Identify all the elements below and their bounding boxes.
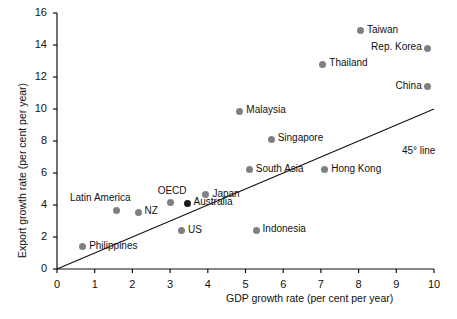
y-tick-label: 0 — [21, 263, 47, 274]
data-point-marker[interactable] — [167, 199, 174, 206]
data-point-label: OECD — [158, 186, 187, 196]
x-tick-label: 1 — [81, 279, 109, 290]
y-tick-label: 16 — [21, 7, 47, 18]
data-point-label: Latin America — [70, 193, 131, 203]
data-point-label: South Asia — [256, 164, 304, 174]
x-tick-label: 3 — [156, 279, 184, 290]
y-axis-title: Export growth rate (per cent per year) — [17, 83, 28, 258]
data-point-marker[interactable] — [113, 207, 120, 214]
y-tick-label: 12 — [21, 71, 47, 82]
data-point-marker[interactable] — [319, 61, 326, 68]
data-point-label: Indonesia — [263, 224, 306, 234]
data-point-label: Taiwan — [367, 25, 398, 35]
x-tick-label: 10 — [420, 279, 448, 290]
chart-annotation: 45° line — [402, 146, 435, 156]
data-point-label: Malaysia — [246, 105, 285, 115]
data-point-label: NZ — [145, 206, 158, 216]
data-point-label: Rep. Korea — [371, 42, 422, 52]
x-tick-label: 7 — [307, 279, 335, 290]
data-point-marker[interactable] — [253, 227, 260, 234]
x-tick-label: 6 — [269, 279, 297, 290]
x-tick-label: 9 — [382, 279, 410, 290]
data-point-marker[interactable] — [135, 209, 142, 216]
data-point-label: Australia — [194, 197, 233, 207]
data-point-label: Philippines — [89, 241, 137, 251]
data-point-marker[interactable] — [424, 45, 431, 52]
data-point-label: Singapore — [278, 133, 324, 143]
scatter-chart: 0246810121416 012345678910 TaiwanRep. Ko… — [0, 0, 457, 319]
x-tick-label: 0 — [43, 279, 71, 290]
x-tick-label: 4 — [194, 279, 222, 290]
data-point-label: Hong Kong — [331, 164, 381, 174]
x-axis-title: GDP growth rate (per cent per year) — [226, 293, 393, 304]
data-point-marker[interactable] — [268, 136, 275, 143]
x-tick-label: 2 — [118, 279, 146, 290]
data-point-label: Thailand — [329, 58, 367, 68]
x-tick-label: 5 — [232, 279, 260, 290]
y-tick-label: 14 — [21, 39, 47, 50]
data-point-marker[interactable] — [424, 83, 431, 90]
x-tick-label: 8 — [345, 279, 373, 290]
data-point-marker[interactable] — [184, 200, 191, 207]
data-point-label: China — [396, 81, 422, 91]
data-point-label: US — [188, 225, 202, 235]
data-point-marker[interactable] — [178, 227, 185, 234]
